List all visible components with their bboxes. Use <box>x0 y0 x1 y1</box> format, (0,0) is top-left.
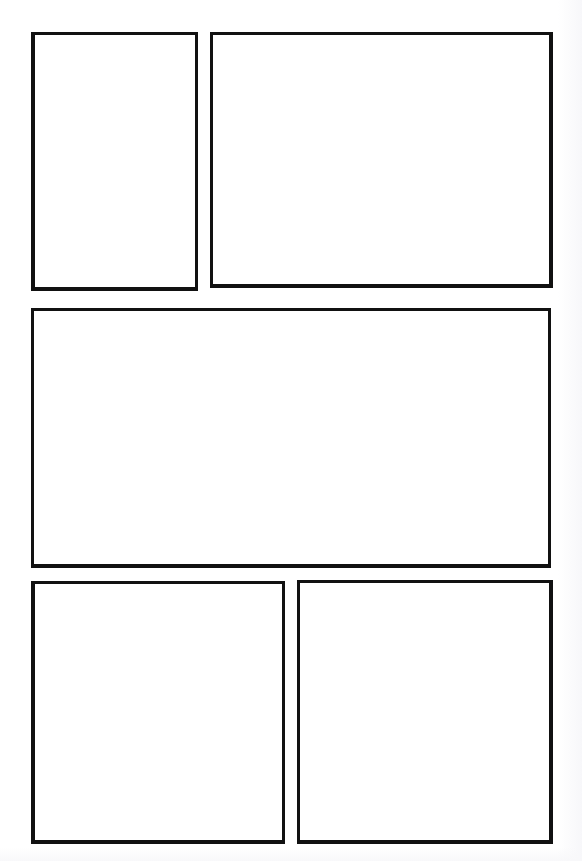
comic-panel-1-content[interactable] <box>35 35 195 287</box>
paper-edge-shading-right <box>558 0 582 861</box>
comic-panel-2[interactable] <box>210 32 553 288</box>
comic-page <box>0 0 582 861</box>
comic-panel-5[interactable] <box>297 580 553 844</box>
comic-panel-2-content[interactable] <box>213 35 549 284</box>
comic-panel-3[interactable] <box>31 308 551 568</box>
comic-panel-4[interactable] <box>31 581 285 844</box>
paper-edge-shading-bottom <box>0 847 582 861</box>
comic-panel-1[interactable] <box>31 32 198 291</box>
comic-panel-3-content[interactable] <box>34 311 548 564</box>
comic-panel-5-content[interactable] <box>300 583 549 840</box>
comic-panel-4-content[interactable] <box>35 584 282 840</box>
